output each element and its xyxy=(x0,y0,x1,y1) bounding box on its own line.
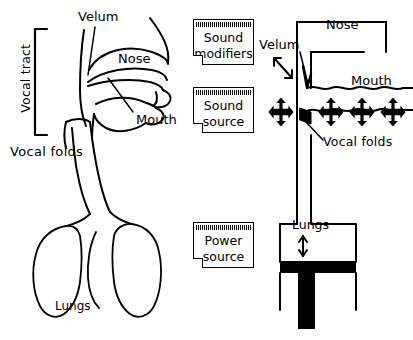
lungs-outline xyxy=(33,212,161,317)
right-velum-double-arrow xyxy=(274,58,292,78)
note-power-source: Power source xyxy=(193,222,254,268)
vocal-folds-label-right: Vocal folds xyxy=(323,136,392,149)
right-piston xyxy=(280,262,356,329)
right-cylinder-walls xyxy=(280,273,356,310)
note-line-1: Power xyxy=(194,233,253,249)
note-sound-modifiers: Sound modifiers xyxy=(193,19,254,65)
lungs-label-left: Lungs xyxy=(55,300,91,312)
mouth-label-right: Mouth xyxy=(351,74,392,87)
nose-label-right: Nose xyxy=(326,18,358,31)
right-vocal-folds-leader xyxy=(306,122,323,140)
right-velum-leader xyxy=(300,52,308,84)
mouth-leader-line xyxy=(108,78,133,112)
note-line-1: Sound xyxy=(194,98,253,114)
cross-arrow xyxy=(318,98,343,127)
vocal-tract-bracket-label: Vocal tract xyxy=(20,44,33,113)
note-strip-icon xyxy=(196,225,251,230)
cross-arrow xyxy=(268,98,293,127)
note-fold-corner-icon xyxy=(193,123,203,133)
velum-leader-line xyxy=(88,27,95,75)
nose-label-left: Nose xyxy=(118,52,150,65)
cross-arrow xyxy=(349,98,374,127)
note-sound-source: Sound source xyxy=(193,87,254,133)
note-strip-icon xyxy=(196,90,251,95)
note-strip-icon xyxy=(196,22,251,27)
mouth-label-left: Mouth xyxy=(136,113,177,126)
figure-canvas: Vocal tract Velum Nose Mouth Vocal folds… xyxy=(0,0,413,340)
vocal-folds-label-left: Vocal folds xyxy=(10,145,83,158)
lungs-label-right: Lungs xyxy=(292,219,329,232)
cross-arrow xyxy=(380,98,405,127)
velum-label-left: Velum xyxy=(78,10,118,23)
note-fold-corner-icon xyxy=(193,55,203,65)
note-line-1: Sound xyxy=(194,30,253,46)
velum-label-right: Velum xyxy=(259,38,299,51)
vocal-tract-bracket xyxy=(35,29,47,135)
cross-arrow-group xyxy=(268,98,405,127)
note-fold-corner-icon xyxy=(193,258,203,268)
right-lungs-double-arrow xyxy=(299,236,307,256)
